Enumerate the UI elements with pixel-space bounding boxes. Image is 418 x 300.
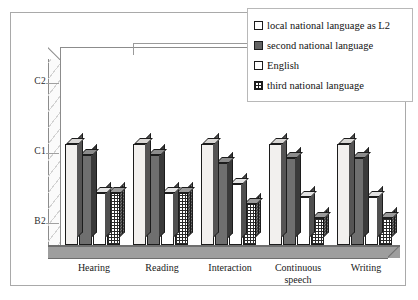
legend-swatch-icon [254,21,263,30]
bar-side-face [213,133,219,238]
legend-item[interactable]: third national language [254,75,408,95]
bar-side-face [363,147,369,238]
legend-leader-line-horizontal [133,43,248,44]
bar [201,144,214,245]
chart-legend: local national language as L2second nati… [247,8,413,102]
bar-side-face [281,133,287,238]
bar [269,144,282,245]
legend-item-label: second national language [267,40,373,51]
legend-item-label: local national language as L2 [267,20,390,31]
legend-item[interactable]: English [254,55,408,75]
legend-item[interactable]: local national language as L2 [254,15,408,35]
legend-swatch-icon [254,81,263,90]
chart-figure: C2C1B2 HearingReadingInteractionContinuo… [0,0,418,300]
bar-side-face [227,152,233,239]
legend-swatch-icon [254,41,263,50]
legend-leader-line-vertical [133,43,134,55]
bar-side-face [349,133,355,238]
bar-side-face [91,144,97,238]
bar [337,144,350,245]
bar-side-face [295,147,301,238]
legend-item[interactable]: second national language [254,35,408,55]
bar-side-face [159,144,165,238]
bar [133,144,146,245]
bar-side-face [145,133,151,238]
bar [65,144,78,245]
legend-item-label: third national language [267,80,364,91]
legend-swatch-icon [254,61,263,70]
x-axis-label-writing: Writing [326,262,406,274]
bar-side-face [77,133,83,238]
legend-item-label: English [267,60,299,71]
